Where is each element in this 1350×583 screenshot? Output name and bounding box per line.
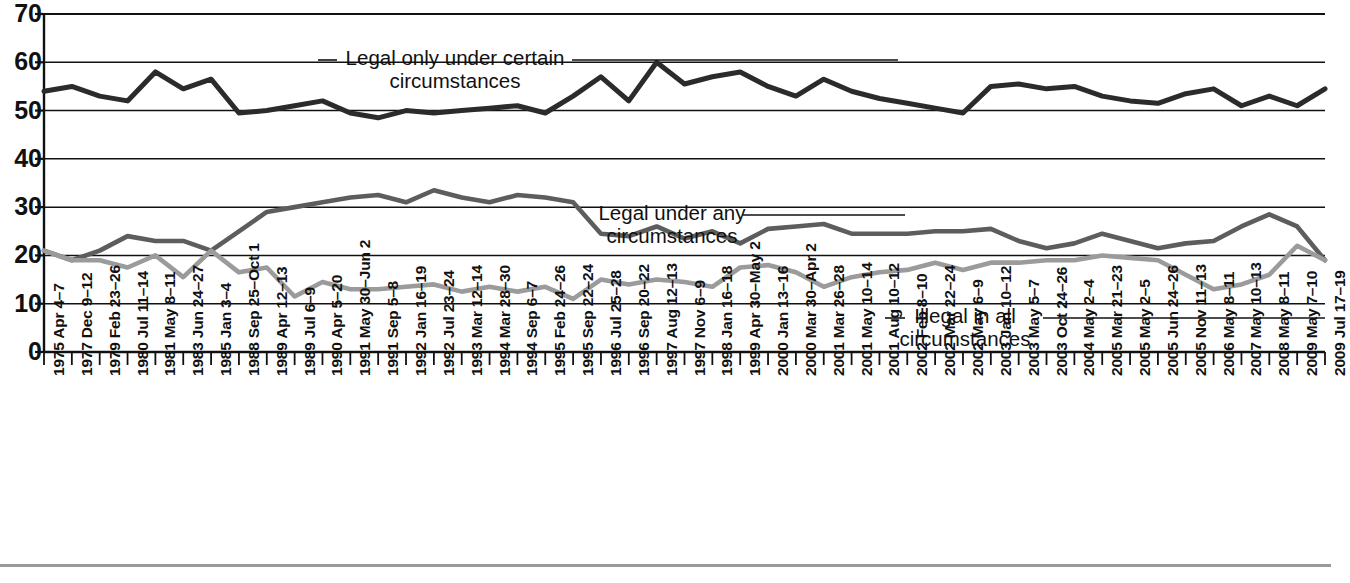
annotation-legal-any: Legal under any circumstances xyxy=(7,202,1338,248)
x-axis-tick-label: 1989 Apr 12–13 xyxy=(273,266,291,376)
x-axis-tick-label: 1985 Jan 3–4 xyxy=(217,283,235,376)
x-axis-tick-label: 1975 Apr 4–7 xyxy=(50,283,68,376)
x-axis-tick-label: 1988 Sep 25–Oct 1 xyxy=(245,243,263,376)
annotation-illegal-all-line2: circumstances xyxy=(300,328,1350,351)
annotation-legal-any-line2: circumstances xyxy=(7,225,1338,248)
annotation-legal-only-certain-line2: circumstances xyxy=(0,70,1121,93)
x-axis-tick-label: 1977 Dec 9–12 xyxy=(78,273,96,376)
annotation-illegal-all: Illegal in all circumstances xyxy=(300,305,1350,351)
annotation-legal-only-certain-line1: Legal only under certain xyxy=(0,47,1121,70)
annotation-legal-only-certain: Legal only under certain circumstances xyxy=(0,47,1121,93)
x-axis-tick-label: 1979 Feb 23–26 xyxy=(106,265,124,376)
figure-bottom-rule xyxy=(0,564,1331,567)
x-axis-tick-label: 1983 Jun 24–27 xyxy=(189,265,207,376)
x-axis-tick-label: 1981 May 8–11 xyxy=(161,272,179,376)
annotation-legal-any-line1: Legal under any xyxy=(7,202,1338,225)
annotation-illegal-all-line1: Illegal in all xyxy=(300,305,1350,328)
x-axis-tick-label: 1980 Jul 11–14 xyxy=(134,271,152,376)
